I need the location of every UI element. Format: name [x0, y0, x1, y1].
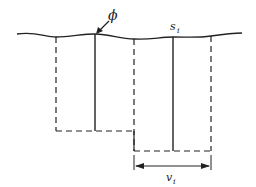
dimension-arrowhead-left-icon [135, 163, 144, 169]
s-subscript: i [177, 26, 180, 35]
v-subscript: i [173, 177, 176, 186]
diagram-canvas: ϕ s i v i [0, 0, 256, 187]
phi-label: ϕ [108, 7, 118, 23]
s-label: s [170, 20, 176, 33]
dimension-arrowhead-right-icon [201, 163, 210, 169]
v-label: v [166, 171, 173, 184]
wavy-surface-line [17, 33, 242, 39]
